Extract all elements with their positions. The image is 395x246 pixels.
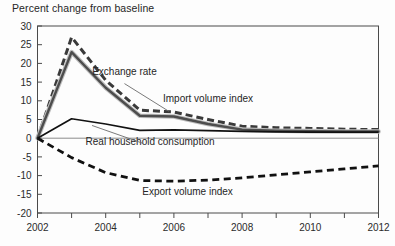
chart-series (38, 37, 379, 181)
series-label-import-volume-index: Import volume index (163, 93, 253, 104)
series-label-exchange-rate: Exchange rate (92, 66, 157, 77)
y-tick-label: 10 (20, 95, 32, 106)
y-tick-label: -15 (17, 189, 32, 200)
x-tick-label: 2004 (95, 222, 118, 233)
x-tick-label: 2002 (26, 222, 49, 233)
x-tick-label: 2008 (231, 222, 254, 233)
y-tick-label: 5 (26, 114, 32, 125)
y-tick-label: 20 (20, 58, 32, 69)
y-tick-label: 0 (26, 133, 32, 144)
y-tick-label: -10 (17, 170, 32, 181)
y-tick-label: -5 (23, 152, 32, 163)
y-tick-label: 25 (20, 39, 32, 50)
x-tick-label: 2006 (163, 222, 186, 233)
y-tick-label: 30 (20, 21, 32, 32)
x-tick-label: 2010 (299, 222, 322, 233)
line-chart-plot: 302520151050-5-10-15-2020022004200620082… (0, 0, 395, 246)
y-tick-label: -20 (17, 208, 32, 219)
series-label-export-volume-index: Export volume index (142, 186, 233, 197)
x-tick-label: 2012 (367, 222, 390, 233)
chart-figure: Percent change from baseline 30252015105… (0, 0, 395, 246)
series-label-real-household-consumption: Real household consumption (86, 136, 215, 147)
y-tick-label: 15 (20, 77, 32, 88)
